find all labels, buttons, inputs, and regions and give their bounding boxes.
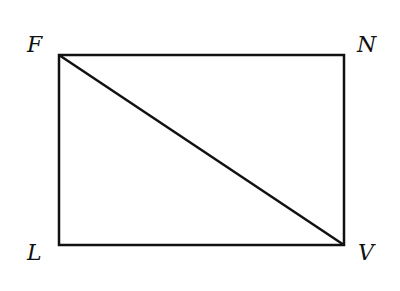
vertex-label-F: F (26, 32, 43, 57)
vertex-label-N: N (356, 32, 377, 57)
vertex-label-V: V (358, 240, 376, 265)
diagonal-FV (59, 55, 344, 245)
rectangle-diagram: F N L V (0, 0, 400, 291)
vertex-label-L: L (26, 240, 42, 265)
